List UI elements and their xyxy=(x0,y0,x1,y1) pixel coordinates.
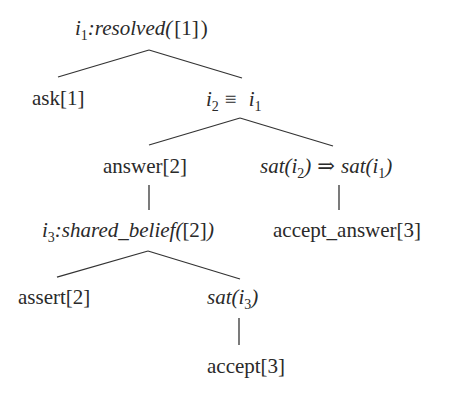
node-root-resolved: i1:resolved([1]) xyxy=(75,18,208,43)
equivalence-symbol: ≡ xyxy=(219,87,243,111)
implies-symbol: ⇒ xyxy=(311,154,341,178)
node-assert: assert[2] xyxy=(18,287,90,308)
node-accept: accept[3] xyxy=(207,356,285,377)
edge-shared-assert xyxy=(57,251,148,277)
node-ask: ask[1] xyxy=(32,88,84,109)
node-shared-belief: i3:shared_belief([2]) xyxy=(42,220,214,245)
tree-edges xyxy=(0,0,451,395)
edge-root-ask xyxy=(58,50,149,77)
edge-shared-sat3 xyxy=(148,251,240,279)
node-sat-i3: sat(i3) xyxy=(207,287,258,312)
node-sat-implication: sat(i2)⇒sat(i1) xyxy=(260,156,392,181)
edge-equiv-answer xyxy=(149,118,240,145)
edge-root-equiv xyxy=(149,50,242,78)
edge-equiv-sat-impl xyxy=(240,118,333,146)
node-accept-answer: accept_answer[3] xyxy=(273,220,421,241)
node-equivalence: i2≡i1 xyxy=(206,89,262,114)
node-answer: answer[2] xyxy=(103,156,187,177)
